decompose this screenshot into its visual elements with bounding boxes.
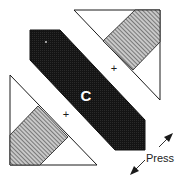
seam-mark-upper-right: + bbox=[111, 62, 117, 74]
quilt-diagram: C + + Press bbox=[0, 0, 180, 186]
center-piece-label: C bbox=[81, 87, 92, 104]
seam-mark-lower-left: + bbox=[63, 108, 69, 120]
center-piece-dot bbox=[45, 41, 47, 43]
press-label: Press bbox=[146, 152, 175, 164]
